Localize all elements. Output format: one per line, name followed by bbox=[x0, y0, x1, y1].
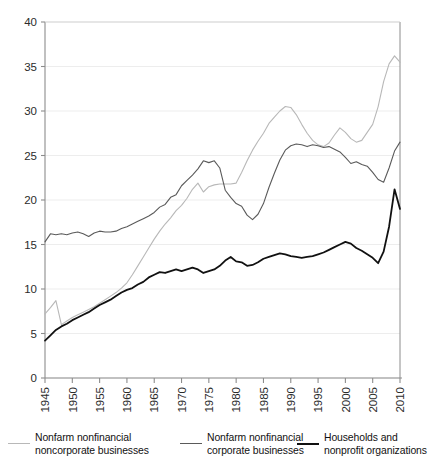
chart-legend: Nonfarm nonfinancial noncorporate busine… bbox=[0, 432, 429, 476]
x-tick-label-1950: 1950 bbox=[67, 387, 79, 413]
legend-label-corporate: Nonfarm nonfinancial corporate businesse… bbox=[207, 432, 304, 457]
x-tick-label-1965: 1965 bbox=[148, 387, 160, 413]
series-line-2 bbox=[45, 189, 400, 340]
x-tick-label-1995: 1995 bbox=[312, 387, 324, 413]
legend-swatch-households bbox=[297, 437, 319, 448]
x-tick-label-2000: 2000 bbox=[340, 387, 352, 413]
x-tick-label-1960: 1960 bbox=[121, 387, 133, 413]
x-tick-label-1955: 1955 bbox=[94, 387, 106, 413]
y-tick-label-5: 5 bbox=[31, 328, 37, 340]
legend-item-households: Households and nonprofit organizations bbox=[297, 432, 429, 457]
legend-swatch-corporate bbox=[180, 437, 202, 448]
y-tick-label-15: 15 bbox=[24, 239, 37, 251]
x-tick-label-2010: 2010 bbox=[394, 387, 406, 413]
chart-figure: 0510152025303540194519501955196019651970… bbox=[0, 0, 429, 476]
x-tick-label-1975: 1975 bbox=[203, 387, 215, 413]
y-tick-label-30: 30 bbox=[24, 105, 37, 117]
x-tick-label-2005: 2005 bbox=[367, 387, 379, 413]
x-tick-label-1970: 1970 bbox=[176, 387, 188, 413]
legend-label-noncorporate: Nonfarm nonfinancial noncorporate busine… bbox=[35, 432, 149, 457]
y-tick-label-0: 0 bbox=[31, 372, 37, 384]
y-tick-label-35: 35 bbox=[24, 61, 37, 73]
series-line-1 bbox=[45, 142, 400, 242]
y-tick-label-20: 20 bbox=[24, 194, 37, 206]
y-tick-label-10: 10 bbox=[24, 283, 37, 295]
chart-plot-area: 0510152025303540194519501955196019651970… bbox=[0, 0, 429, 430]
legend-item-noncorporate: Nonfarm nonfinancial noncorporate busine… bbox=[8, 432, 173, 457]
legend-label-households: Households and nonprofit organizations bbox=[324, 432, 427, 457]
y-tick-label-40: 40 bbox=[24, 16, 37, 28]
legend-item-corporate: Nonfarm nonfinancial corporate businesse… bbox=[180, 432, 310, 457]
line-chart-svg: 0510152025303540194519501955196019651970… bbox=[0, 0, 429, 430]
x-tick-label-1985: 1985 bbox=[258, 387, 270, 413]
x-tick-label-1980: 1980 bbox=[230, 387, 242, 413]
legend-swatch-noncorporate bbox=[8, 437, 30, 448]
series-line-0 bbox=[45, 56, 400, 325]
y-tick-label-25: 25 bbox=[24, 150, 37, 162]
x-tick-label-1945: 1945 bbox=[39, 387, 51, 413]
x-tick-label-1990: 1990 bbox=[285, 387, 297, 413]
